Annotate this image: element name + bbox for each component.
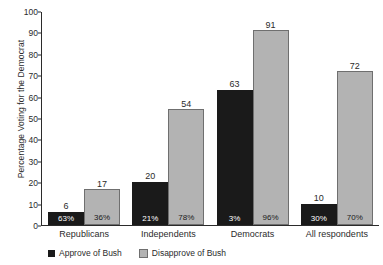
bar-column: 663% — [48, 12, 84, 225]
y-axis-tick-mark — [38, 119, 41, 120]
y-axis-tick-mark — [38, 97, 41, 98]
bar-approve[interactable]: 2021% — [132, 182, 168, 225]
bar-column: 5478% — [168, 12, 204, 225]
bar-group: 663%1736%Republicans — [42, 12, 126, 225]
y-axis-tick-mark — [38, 226, 41, 227]
legend-swatch-disapprove — [139, 249, 148, 258]
bar-share-label: 78% — [178, 213, 194, 222]
bar-group-bars: 633%9196% — [211, 12, 295, 225]
bar-value-label: 6 — [64, 201, 69, 211]
y-axis-tick-label: 80 — [29, 50, 38, 60]
legend-label: Approve of Bush — [59, 248, 122, 258]
plot-area: 0102030405060708090100 663%1736%Republic… — [41, 12, 379, 226]
bar-value-label: 63 — [230, 79, 240, 89]
bar-group: 2021%5478%Independents — [126, 12, 210, 225]
chart-legend: Approve of BushDisapprove of Bush — [48, 248, 226, 258]
x-axis-category-label: Republicans — [42, 229, 126, 239]
bar-chart: Percentage Voting for the Democrat 01020… — [0, 0, 383, 265]
x-axis-category-label: All respondents — [295, 229, 379, 239]
bar-share-label: 30% — [311, 214, 327, 223]
y-axis-tick-mark — [38, 161, 41, 162]
bar-value-label: 10 — [314, 193, 324, 203]
bar-disapprove[interactable]: 9196% — [253, 30, 289, 225]
bar-group-bars: 663%1736% — [42, 12, 126, 225]
bar-share-label: 36% — [94, 213, 110, 222]
legend-swatch-approve — [48, 250, 55, 257]
bar-group: 633%9196%Democrats — [211, 12, 295, 225]
bar-approve[interactable]: 633% — [217, 90, 253, 225]
bar-disapprove[interactable]: 5478% — [168, 109, 204, 225]
bar-value-label: 54 — [181, 99, 191, 109]
y-axis-tick-mark — [38, 204, 41, 205]
bar-value-label: 91 — [266, 20, 276, 30]
bar-approve[interactable]: 663% — [48, 212, 84, 225]
bar-share-label: 63% — [58, 214, 74, 223]
bar-approve[interactable]: 1030% — [301, 204, 337, 225]
bar-disapprove[interactable]: 1736% — [84, 189, 120, 225]
bar-column: 9196% — [253, 12, 289, 225]
y-axis-tick-label: 30 — [29, 157, 38, 167]
y-axis-tick-label: 100 — [24, 7, 38, 17]
y-axis-tick-label: 10 — [29, 200, 38, 210]
x-axis-category-label: Independents — [126, 229, 210, 239]
x-axis-category-label: Democrats — [211, 229, 295, 239]
y-axis-tick-mark — [38, 140, 41, 141]
bar-column: 7270% — [337, 12, 373, 225]
legend-item[interactable]: Disapprove of Bush — [139, 248, 226, 258]
legend-item[interactable]: Approve of Bush — [48, 248, 122, 258]
bar-column: 1030% — [301, 12, 337, 225]
bar-group-bars: 2021%5478% — [126, 12, 210, 225]
bar-group-bars: 1030%7270% — [295, 12, 379, 225]
bar-group: 1030%7270%All respondents — [295, 12, 379, 225]
bar-column: 1736% — [84, 12, 120, 225]
y-axis-tick-label: 70 — [29, 71, 38, 81]
bar-value-label: 72 — [350, 61, 360, 71]
y-axis-tick-mark — [38, 54, 41, 55]
y-axis-tick-label: 20 — [29, 178, 38, 188]
bar-column: 633% — [217, 12, 253, 225]
y-axis-tick-label: 50 — [29, 114, 38, 124]
y-axis-tick-mark — [38, 183, 41, 184]
y-axis-tick-mark — [38, 12, 41, 13]
bar-disapprove[interactable]: 7270% — [337, 71, 373, 225]
y-axis-tick-mark — [38, 33, 41, 34]
x-axis-line — [41, 225, 379, 226]
bar-share-label: 70% — [347, 213, 363, 222]
bar-column: 2021% — [132, 12, 168, 225]
bar-value-label: 20 — [145, 171, 155, 181]
bar-value-label: 17 — [97, 179, 107, 189]
y-axis-tick-label: 40 — [29, 135, 38, 145]
y-axis-tick-label: 90 — [29, 28, 38, 38]
bar-share-label: 96% — [263, 213, 279, 222]
y-axis-tick-label: 60 — [29, 93, 38, 103]
y-axis-tick-mark — [38, 76, 41, 77]
bar-share-label: 21% — [142, 214, 158, 223]
y-axis-title: Percentage Voting for the Democrat — [16, 19, 26, 199]
legend-label: Disapprove of Bush — [152, 248, 226, 258]
bar-share-label: 3% — [229, 214, 241, 223]
bar-groups: 663%1736%Republicans2021%5478%Independen… — [42, 12, 379, 225]
